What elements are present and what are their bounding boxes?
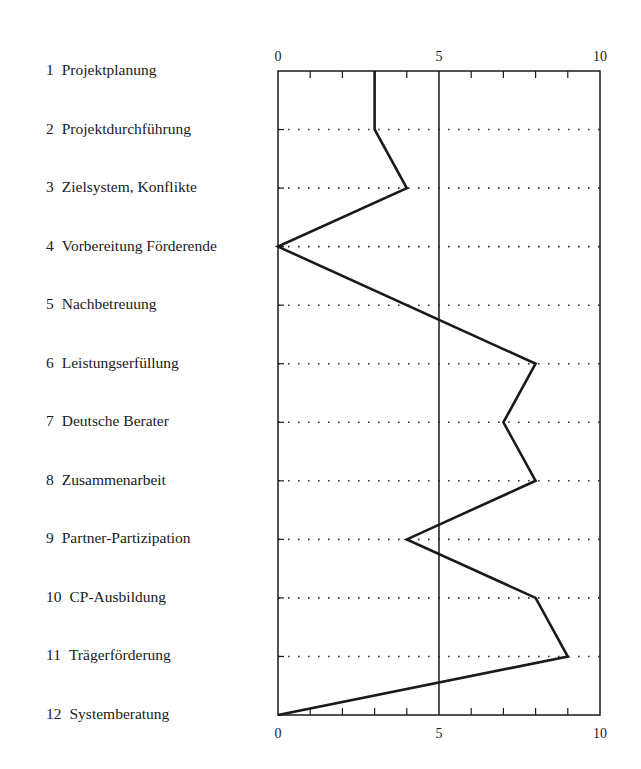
x-axis-label-top-5: 5 xyxy=(436,49,443,64)
x-axis-label-bottom-5: 5 xyxy=(436,726,443,741)
data-series-line xyxy=(278,71,568,715)
x-axis-label-top-0: 0 xyxy=(275,49,282,64)
profile-line-chart: 00551010 xyxy=(0,0,641,769)
x-axis-label-top-10: 10 xyxy=(593,49,607,64)
x-axis-label-bottom-0: 0 xyxy=(275,726,282,741)
x-axis-label-bottom-10: 10 xyxy=(593,726,607,741)
